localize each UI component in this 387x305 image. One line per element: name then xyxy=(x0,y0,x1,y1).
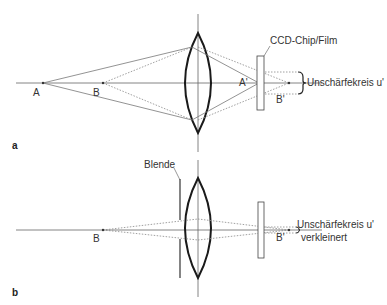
panel-label-b: b xyxy=(12,288,18,298)
panel-b xyxy=(16,160,322,297)
label-point-b: B xyxy=(93,88,100,98)
label-point-a-image: A' xyxy=(239,78,248,88)
label-aperture: Blende xyxy=(144,160,175,170)
label-blur-circle-b-reduced: verkleinert xyxy=(301,233,347,243)
point-b-image xyxy=(288,82,290,84)
ray-a-bottom-image xyxy=(192,83,259,120)
panel-label-a: a xyxy=(12,141,18,151)
label-point-b2: B xyxy=(93,234,100,244)
label-point-a: A xyxy=(33,88,40,98)
point-a xyxy=(42,82,44,84)
ray-a-bottom xyxy=(43,83,192,120)
point-b2 xyxy=(102,229,104,231)
point-b xyxy=(102,82,104,84)
sensor-leader-a xyxy=(264,46,270,56)
ray-b2-bottom xyxy=(103,230,198,240)
ray-a-top-image xyxy=(192,47,259,83)
point-b2-image xyxy=(288,229,290,231)
label-point-b2-image: B' xyxy=(276,233,285,243)
ray-a-top xyxy=(43,47,192,83)
label-blur-circle-b: Unschärfekreis u' xyxy=(297,220,374,230)
sensor-b xyxy=(258,202,264,258)
optics-figure: A B A' B' CCD-Chip/Film Unschärfekreis u… xyxy=(0,0,387,305)
ray-b2-top xyxy=(103,219,198,230)
label-sensor: CCD-Chip/Film xyxy=(270,36,337,46)
label-blur-circle-a: Unschärfekreis u' xyxy=(307,78,384,88)
sensor-a xyxy=(257,56,264,110)
label-point-b-image: B' xyxy=(276,95,285,105)
